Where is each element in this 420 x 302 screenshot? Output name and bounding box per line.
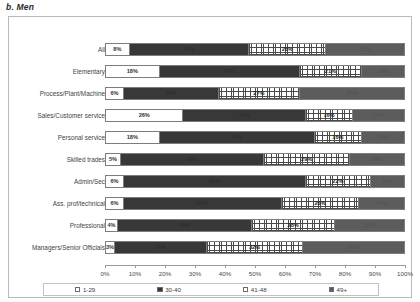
- chart-row: Professional4%45%28%23%: [9, 215, 413, 237]
- bar-segment: 6%: [106, 176, 124, 187]
- bar-segment-value: 26%: [282, 47, 293, 53]
- bar-segment: 4%: [106, 220, 118, 231]
- x-axis-tick-label: 60%: [279, 270, 291, 277]
- stacked-bar: 8%40%26%26%: [105, 43, 405, 56]
- stacked-bar-chart: All8%40%26%26%Elementary18%47%21%14%Proc…: [9, 17, 413, 299]
- bar-segment: 40%: [130, 44, 249, 55]
- bar-segment-value: 5%: [109, 157, 117, 163]
- chart-row: All8%40%26%26%: [9, 39, 413, 61]
- bar-segment-value: 40%: [183, 47, 194, 53]
- stacked-bar: 18%52%16%14%: [105, 131, 405, 144]
- bar-segment-value: 23%: [364, 223, 375, 229]
- bar-segment-value: 14%: [378, 69, 389, 75]
- category-label: Skilled trades: [19, 149, 105, 171]
- bar-segment-value: 3%: [106, 245, 114, 251]
- category-label: Elementary: [19, 61, 105, 83]
- x-axis-tick-label: 10%: [129, 270, 141, 277]
- legend-item[interactable]: 1-29: [75, 286, 95, 293]
- stacked-bar: 5%48%29%18%: [105, 153, 405, 166]
- figure: b. Men All8%40%26%26%Elementary18%47%21%…: [0, 0, 420, 302]
- bar-segment: 28%: [252, 220, 335, 231]
- bar-segment-value: 28%: [288, 223, 299, 229]
- bar-segment-value: 6%: [110, 179, 118, 185]
- stacked-bar: 6%32%27%35%: [105, 87, 405, 100]
- bar-segment: 16%: [306, 110, 354, 121]
- bar-segment: 26%: [326, 44, 403, 55]
- bar-segment: 21%: [300, 66, 363, 77]
- bar-segment-value: 32%: [249, 245, 260, 251]
- legend-item[interactable]: 30-40: [157, 286, 181, 293]
- chart-legend: 1-2930-4041-4849+: [43, 283, 379, 296]
- legend-swatch-icon: [157, 287, 163, 293]
- x-axis-tick: [345, 265, 346, 268]
- x-axis-tick: [225, 265, 226, 268]
- bar-segment-value: 15%: [376, 201, 387, 207]
- bar-segment: 22%: [306, 176, 372, 187]
- bar-segment-value: 53%: [197, 201, 208, 207]
- chart-row: Personal service18%52%16%14%: [9, 127, 413, 149]
- bar-segment-value: 31%: [155, 245, 166, 251]
- bar-segment-value: 34%: [348, 245, 359, 251]
- bar-segment-value: 26%: [360, 47, 371, 53]
- category-label: Sales/Customer service: [19, 105, 105, 127]
- legend-swatch-icon: [243, 287, 249, 293]
- bar-segment-value: 18%: [127, 69, 138, 75]
- bar-segment: 26%: [106, 110, 183, 121]
- x-axis-tick: [135, 265, 136, 268]
- x-axis-tick: [375, 265, 376, 268]
- bar-segment-value: 18%: [127, 135, 138, 141]
- bar-segment-value: 6%: [110, 201, 118, 207]
- legend-item[interactable]: 41-48: [243, 286, 267, 293]
- bar-segment-value: 11%: [382, 179, 393, 185]
- bar-segment: 26%: [249, 44, 326, 55]
- stacked-bar: 18%47%21%14%: [105, 65, 405, 78]
- bar-segment: 14%: [362, 132, 404, 143]
- x-axis: 0%10%20%30%40%50%60%70%80%90%100%: [105, 265, 405, 281]
- bar-segment: 29%: [264, 154, 350, 165]
- bar-segment: 8%: [106, 44, 130, 55]
- x-axis-tick-label: 30%: [189, 270, 201, 277]
- category-label: Process/Plant/Machine: [19, 83, 105, 105]
- category-label: Ass. prof/technical: [19, 193, 105, 215]
- category-label: All: [19, 39, 105, 61]
- bar-segment-value: 18%: [372, 157, 383, 163]
- plot-frame: All8%40%26%26%Elementary18%47%21%14%Proc…: [8, 16, 412, 298]
- x-axis-tick-label: 80%: [339, 270, 351, 277]
- chart-row: Sales/Customer service26%41%16%17%: [9, 105, 413, 127]
- x-axis-tick: [405, 265, 406, 268]
- chart-row: Managers/Senior Officials3%31%32%34%: [9, 237, 413, 259]
- bar-segment-value: 48%: [186, 157, 197, 163]
- legend-swatch-icon: [75, 287, 81, 293]
- figure-caption: b. Men: [6, 2, 34, 12]
- bar-segment: 41%: [183, 110, 305, 121]
- stacked-bar: 3%31%32%34%: [105, 241, 405, 254]
- bar-segment: 11%: [371, 176, 404, 187]
- chart-row: Elementary18%47%21%14%: [9, 61, 413, 83]
- chart-row: Admin/Sec6%61%22%11%: [9, 171, 413, 193]
- x-axis-tick-label: 70%: [309, 270, 321, 277]
- bar-segment-value: 41%: [238, 113, 249, 119]
- stacked-bar: 6%53%26%15%: [105, 197, 405, 210]
- bar-segment-value: 35%: [346, 91, 357, 97]
- bar-segment: 16%: [315, 132, 363, 143]
- bar-segment: 48%: [121, 154, 264, 165]
- stacked-bar: 6%61%22%11%: [105, 175, 405, 188]
- x-axis-tick-label: 0%: [101, 270, 110, 277]
- bar-segment: 23%: [335, 220, 404, 231]
- bar-segment: 53%: [124, 198, 282, 209]
- x-axis-tick: [315, 265, 316, 268]
- bar-segment-value: 16%: [323, 113, 334, 119]
- bar-segment-value: 8%: [113, 47, 121, 53]
- legend-item[interactable]: 49+: [329, 286, 348, 293]
- bar-segment-value: 27%: [253, 91, 264, 97]
- bar-segment: 17%: [353, 110, 404, 121]
- x-axis-tick: [165, 265, 166, 268]
- bar-segment: 32%: [124, 88, 219, 99]
- bar-segment-value: 4%: [107, 223, 115, 229]
- bar-segment-value: 16%: [332, 135, 343, 141]
- stacked-bar: 4%45%28%23%: [105, 219, 405, 232]
- legend-label: 41-48: [251, 286, 267, 293]
- bar-segment: 27%: [219, 88, 299, 99]
- x-axis-tick-label: 90%: [369, 270, 381, 277]
- x-axis-tick-label: 20%: [159, 270, 171, 277]
